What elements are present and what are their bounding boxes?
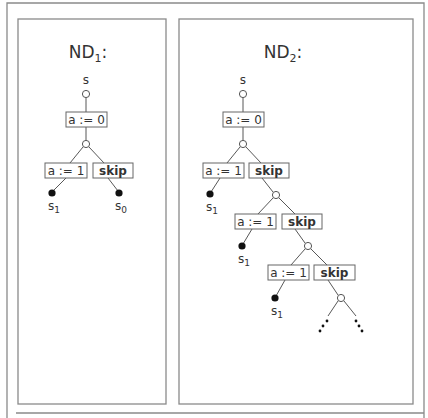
final-state-label: s1 xyxy=(271,304,283,320)
final-state-label: s0 xyxy=(115,199,127,215)
assignment-statement-box: a := 0 xyxy=(223,112,264,127)
tree-edge xyxy=(108,178,118,191)
figure: ND1:sa := 0a := 1skips1s0 ND2:sa := 0a :… xyxy=(0,0,428,418)
panel-title: ND1: xyxy=(69,42,108,65)
statement-label: a := 0 xyxy=(225,113,262,127)
tree-edge xyxy=(311,249,327,265)
continuation-ellipsis-icon xyxy=(358,325,361,328)
continuation-ellipsis-icon xyxy=(355,320,358,323)
statement-label: skip xyxy=(99,164,127,178)
tree-edge xyxy=(295,229,305,243)
panel-nd1: ND1:sa := 0a := 1skips1s0 xyxy=(18,19,166,404)
tree-edge xyxy=(291,249,305,265)
open-node-icon xyxy=(304,242,311,249)
statement-label: a := 1 xyxy=(270,266,307,280)
final-state-node-icon xyxy=(48,189,55,196)
open-node-icon xyxy=(239,90,246,97)
final-state-node-icon xyxy=(206,190,213,197)
open-node-icon xyxy=(82,90,89,97)
statement-label: skip xyxy=(288,215,316,229)
statement-label: a := 1 xyxy=(237,215,274,229)
nondeterminism-tree-diagram: ND1:sa := 0a := 1skips1s0 ND2:sa := 0a :… xyxy=(0,0,428,418)
tree-edge xyxy=(70,147,83,163)
tree-edge xyxy=(328,280,338,295)
statement-label: skip xyxy=(321,266,349,280)
continuation-ellipsis-icon xyxy=(322,325,325,328)
tree-edge xyxy=(276,280,285,296)
tree-edge xyxy=(53,178,66,191)
panel-nd2: ND2:sa := 0a := 1skipa := 1skipa := 1ski… xyxy=(179,19,413,404)
statement-label: skip xyxy=(255,164,283,178)
assignment-statement-box: a := 1 xyxy=(45,163,87,178)
assignment-statement-box: a := 1 xyxy=(235,214,276,229)
skip-statement-box: skip xyxy=(314,265,355,280)
tree-edge xyxy=(328,301,338,316)
tree-edge xyxy=(246,147,261,163)
statement-label: a := 1 xyxy=(205,164,242,178)
final-state-node-icon xyxy=(115,189,122,196)
tree-edge xyxy=(227,147,240,163)
root-state-label: s xyxy=(83,73,89,87)
continuation-ellipsis-icon xyxy=(326,320,329,323)
statement-label: a := 1 xyxy=(48,164,85,178)
assignment-statement-box: a := 1 xyxy=(203,163,244,178)
final-state-label: s1 xyxy=(206,200,218,216)
tree-edge xyxy=(279,198,295,214)
final-state-label: s1 xyxy=(238,252,250,268)
continuation-ellipsis-icon xyxy=(361,330,364,333)
panel-border xyxy=(18,19,166,404)
tree-edge xyxy=(344,301,356,316)
tree-edge xyxy=(243,229,252,244)
skip-statement-box: skip xyxy=(282,214,322,229)
tree-edge xyxy=(262,178,273,192)
open-node-icon xyxy=(337,294,344,301)
skip-statement-box: skip xyxy=(249,163,289,178)
skip-statement-box: skip xyxy=(93,163,133,178)
open-node-icon xyxy=(272,191,279,198)
continuation-ellipsis-icon xyxy=(319,330,322,333)
final-state-node-icon xyxy=(271,294,278,301)
final-state-label: s1 xyxy=(48,199,60,215)
panel-title: ND2: xyxy=(264,42,303,65)
tree-edge xyxy=(211,178,220,192)
statement-label: a := 0 xyxy=(68,113,105,127)
open-node-icon xyxy=(239,140,246,147)
tree-edge xyxy=(258,198,273,214)
open-node-icon xyxy=(82,140,89,147)
tree-edge xyxy=(89,147,104,163)
assignment-statement-box: a := 1 xyxy=(268,265,309,280)
root-state-label: s xyxy=(240,73,246,87)
final-state-node-icon xyxy=(238,242,245,249)
assignment-statement-box: a := 0 xyxy=(66,112,107,127)
